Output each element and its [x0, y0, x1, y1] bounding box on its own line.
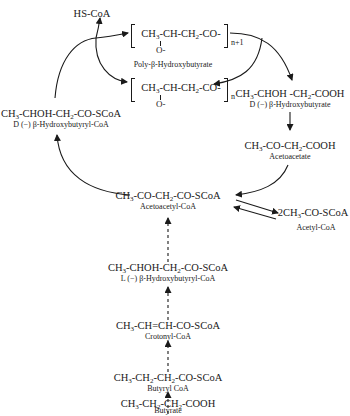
crotonyl-coa-formula: CH3-CH=CH-CO-SCoA: [116, 320, 220, 332]
acetoacetate-name: Acetoacetate: [269, 152, 310, 162]
acetyl-coa-formula: 2CH3-CO-SCoA: [278, 207, 349, 219]
phb-n-oxygen: O-: [156, 99, 166, 109]
arrow-acetylcoa-to-aacoa: [234, 207, 276, 219]
acetoacetate-formula: CH3-CO-CH2-COOH: [244, 140, 335, 152]
l-hydroxybutyryl-coa-formula: CH3-CHOH-CH2-CO-SCoA: [108, 262, 228, 274]
phb-name: Poly-β-Hydroxybutyrate: [134, 60, 213, 70]
d-hydroxybutyryl-coa-name: D (−) β-Hydroxybutyryl-CoA: [13, 120, 109, 130]
arrow-acetoacetate-to-aacoa: [236, 165, 288, 195]
acetoacetyl-coa-name: Acetoacetyl-CoA: [140, 202, 196, 212]
hs-coa-label: HS-CoA: [74, 8, 111, 20]
phb-n1-subscript: n+1: [231, 38, 244, 47]
arrow-aacoa-to-acetylcoa: [236, 200, 278, 213]
acetoacetyl-coa-formula: CH3-CO-CH2-CO-SCoA: [115, 190, 220, 202]
arrow-aacoa-to-dhbcoa: [57, 135, 130, 195]
acetyl-coa-name: Acetyl-CoA: [296, 223, 335, 233]
butyryl-coa-name: Butyryl CoA: [147, 384, 189, 394]
arrow-hscoa-release: [96, 18, 100, 38]
l-hydroxybutyryl-coa-name: L (−) β-Hydroxybutyryl-CoA: [121, 274, 216, 284]
butyrate-name: Butyrate: [154, 406, 182, 416]
phb-n-bracket-left: [131, 78, 135, 102]
arrow-dhbcoa-to-phb: [55, 33, 128, 98]
phb-n-bracket-right: [224, 78, 228, 102]
d-hydroxybutyrate-name: D (−) β-Hydroxybutyrate: [249, 100, 330, 110]
phb-n-subscript: n: [231, 92, 235, 101]
d-hydroxybutyryl-coa-formula: CH3-CHOH-CH2-CO-SCoA: [1, 108, 121, 120]
phb-n1-bracket-right: [224, 24, 228, 48]
d-hydroxybutyrate-formula: CH3-CHOH -CH2-COOH: [236, 88, 345, 100]
arrow-phb-n1-to-n: [96, 38, 127, 82]
phb-n1-oxygen: O-: [156, 45, 166, 55]
crotonyl-coa-name: Crotonyl-CoA: [145, 332, 191, 342]
phb-n-formula: CH3-CH-CH2-CO-: [141, 82, 220, 94]
phb-n1-bracket-left: [131, 24, 135, 48]
phb-n1-formula: CH3-CH-CH2-CO-: [141, 28, 220, 40]
butyryl-coa-formula: CH3-CH2-CH2-CO-SCoA: [114, 372, 223, 384]
